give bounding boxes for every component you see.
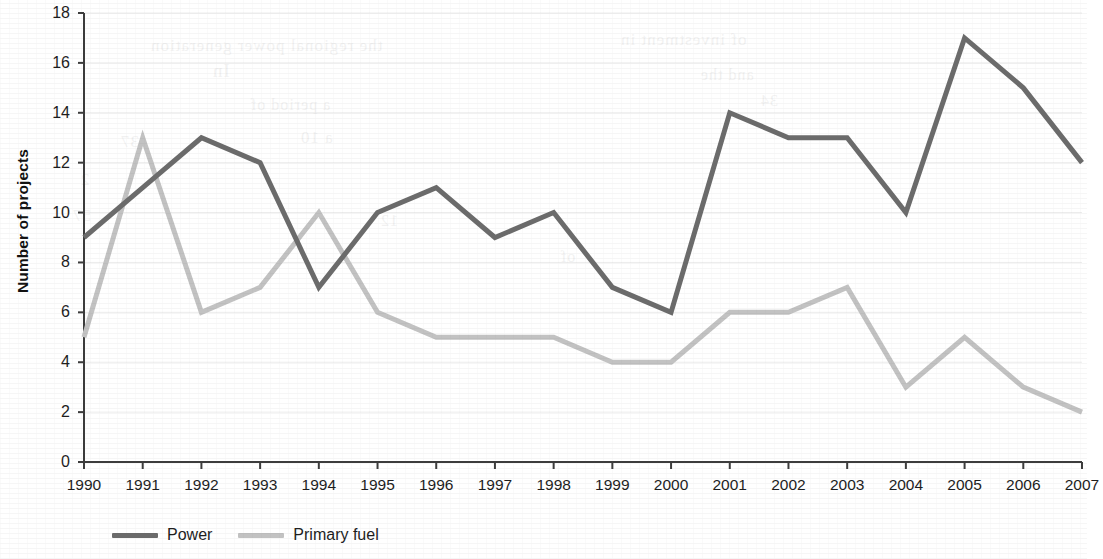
x-axis-tick-label: 2004 bbox=[876, 477, 936, 493]
x-axis-tick-label: 1994 bbox=[289, 477, 349, 493]
legend-label: Power bbox=[167, 527, 212, 543]
x-axis-tick-label: 2005 bbox=[935, 477, 995, 493]
x-axis-tick-label: 2000 bbox=[641, 477, 701, 493]
chart-legend: PowerPrimary fuel bbox=[112, 527, 379, 543]
legend-label: Primary fuel bbox=[293, 527, 378, 543]
y-axis-tick-label: 18 bbox=[40, 5, 70, 21]
legend-entry: Power bbox=[112, 527, 212, 543]
x-axis-tick-label: 1991 bbox=[113, 477, 173, 493]
legend-swatch bbox=[112, 533, 158, 538]
x-axis-tick-label: 1999 bbox=[582, 477, 642, 493]
y-axis-title: Number of projects bbox=[14, 131, 32, 311]
legend-swatch bbox=[238, 533, 284, 538]
y-axis-tick-label: 12 bbox=[40, 155, 70, 171]
y-axis-tick-labels: 024681012141618 bbox=[38, 0, 70, 559]
x-axis-tick-label: 1998 bbox=[524, 477, 584, 493]
x-axis-tick-label: 1990 bbox=[54, 477, 114, 493]
y-axis-tick-label: 16 bbox=[40, 55, 70, 71]
x-axis-tick-label: 2002 bbox=[758, 477, 818, 493]
x-axis-tick-label: 2007 bbox=[1052, 477, 1103, 493]
x-axis-tick-label: 2001 bbox=[700, 477, 760, 493]
x-axis-tick-label: 1992 bbox=[171, 477, 231, 493]
x-axis-tick-label: 1995 bbox=[348, 477, 408, 493]
series-line-power bbox=[84, 38, 1082, 312]
y-axis-tick-label: 2 bbox=[40, 404, 70, 420]
x-axis-tick-label: 2003 bbox=[817, 477, 877, 493]
y-axis-tick-label: 6 bbox=[40, 304, 70, 320]
x-axis-tick-label: 1993 bbox=[230, 477, 290, 493]
y-axis-tick-label: 8 bbox=[40, 254, 70, 270]
x-axis-tick-label: 1996 bbox=[406, 477, 466, 493]
legend-entry: Primary fuel bbox=[238, 527, 378, 543]
y-axis-tick-label: 4 bbox=[40, 354, 70, 370]
y-axis-tick-label: 14 bbox=[40, 105, 70, 121]
x-axis-tick-label: 2006 bbox=[993, 477, 1053, 493]
x-axis-tick-label: 1997 bbox=[465, 477, 525, 493]
series-line-primary-fuel bbox=[84, 138, 1082, 412]
y-axis-tick-label: 0 bbox=[40, 454, 70, 470]
y-axis-tick-label: 10 bbox=[40, 205, 70, 221]
